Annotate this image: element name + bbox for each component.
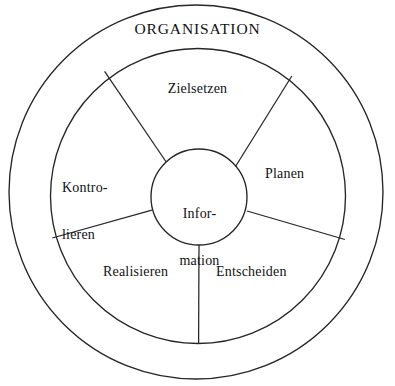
segment-label-kontrollieren: Kontro- lieren — [62, 149, 108, 274]
hub-label-line1: Infor- — [151, 206, 248, 222]
diagram-title: ORGANISATION — [0, 20, 395, 37]
organisation-wheel-diagram: ORGANISATION Zielsetzen Kontro- lieren P… — [0, 0, 395, 386]
segment-label-realisieren: Realisieren — [103, 264, 168, 280]
hub-label-information: Infor- mation — [151, 175, 248, 300]
segment-label-kontrollieren-line1: Kontro- — [62, 180, 108, 196]
spoke-planen-entscheiden — [247, 211, 345, 240]
segment-label-entscheiden: Entscheiden — [216, 264, 287, 280]
segment-label-zielsetzen: Zielsetzen — [0, 81, 395, 97]
segment-label-planen: Planen — [265, 166, 304, 182]
segment-label-kontrollieren-line2: lieren — [62, 227, 108, 243]
